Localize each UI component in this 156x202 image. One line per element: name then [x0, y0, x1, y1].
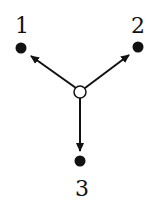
node-3-label: 3 — [75, 176, 89, 201]
center-node — [74, 86, 86, 98]
edge-center-to-1 — [31, 56, 76, 88]
node-2 — [133, 42, 144, 53]
graph-diagram: 1 2 3 — [0, 0, 156, 202]
edge-center-to-2 — [85, 55, 129, 88]
node-3 — [75, 156, 86, 167]
node-1-label: 1 — [15, 13, 29, 38]
node-1 — [16, 43, 27, 54]
node-2-label: 2 — [131, 13, 145, 38]
